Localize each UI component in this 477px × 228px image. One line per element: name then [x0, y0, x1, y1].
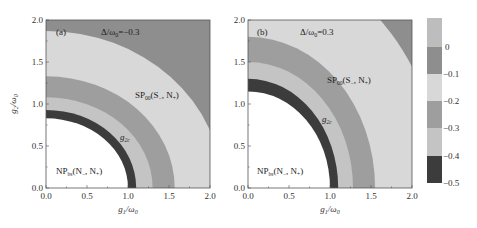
- panel-a-label: (a): [56, 27, 66, 37]
- panel-b-ytick-3: 1.5: [234, 57, 246, 67]
- panel-b-ytick-2: 1.0: [234, 99, 246, 109]
- panel-b-ytick-1: 0.5: [234, 141, 246, 151]
- panel-b-np-label: NPbs(N−, N+): [257, 166, 303, 177]
- panel-a: 0.0 0.5 1.0 1.5 2.0 0.0 0.5 1.0 1.5 2.0 …: [0, 15, 222, 228]
- panel-b-xtick-2: 1.0: [324, 191, 336, 201]
- panel-a-xtick-4: 2.0: [204, 191, 216, 201]
- panel-b-ytick-0: 0.0: [234, 183, 246, 193]
- panel-b-xlabel: g1/ω0: [320, 204, 339, 215]
- colorbar-tick-5: −0.5: [443, 178, 460, 188]
- panel-b-sp-label: SP00(S−, N+): [327, 75, 371, 86]
- colorbar-segment-1: [427, 47, 442, 74]
- colorbar-segment-0: [427, 18, 442, 47]
- colorbar-segment-4: [427, 128, 442, 156]
- panel-b-xtick-4: 2.0: [406, 191, 418, 201]
- panel-a-ytick-0: 0.0: [32, 183, 44, 193]
- panel-b-label: (b): [257, 27, 268, 37]
- panel-a-xlabel: g1/ω0: [118, 204, 137, 215]
- panel-a-np-label: NPbs(N−, N+): [56, 166, 102, 177]
- panel-b-delta: Δ/ω0=0.3: [300, 27, 334, 38]
- colorbar-segment-3: [427, 101, 442, 128]
- colorbar: 0 −0.1 −0.2 −0.3 −0.4 −0.5: [427, 18, 460, 188]
- colorbar-tick-0: 0: [445, 42, 450, 52]
- colorbar-tick-2: −0.2: [443, 96, 459, 106]
- panel-a-ytick-4: 2.0: [32, 15, 44, 25]
- panel-a-ytick-1: 0.5: [32, 141, 44, 151]
- colorbar-segment-2: [427, 74, 442, 101]
- panel-a-ytick-3: 1.5: [32, 57, 44, 67]
- panel-b-ytick-4: 2.0: [234, 15, 246, 25]
- panel-a-sp-label: SP00(S−, N+): [135, 90, 179, 101]
- panel-a-ylabel: g2/ω0: [8, 94, 19, 113]
- colorbar-tick-3: −0.3: [443, 123, 460, 133]
- colorbar-tick-1: −0.1: [443, 69, 459, 79]
- panel-a-xtick-2: 1.0: [122, 191, 134, 201]
- panel-a-xtick-1: 0.5: [81, 191, 93, 201]
- panel-a-contours: [0, 20, 222, 228]
- panel-b-xtick-3: 1.5: [365, 191, 377, 201]
- panel-a-xtick-3: 1.5: [163, 191, 175, 201]
- panel-b-xtick-1: 0.5: [283, 191, 295, 201]
- panel-a-ytick-2: 1.0: [32, 99, 44, 109]
- colorbar-tick-4: −0.4: [443, 151, 460, 161]
- panel-a-delta: Δ/ω0=−0.3: [101, 27, 140, 38]
- figure: 0.0 0.5 1.0 1.5 2.0 0.0 0.5 1.0 1.5 2.0 …: [0, 0, 477, 228]
- colorbar-segment-5: [427, 156, 442, 183]
